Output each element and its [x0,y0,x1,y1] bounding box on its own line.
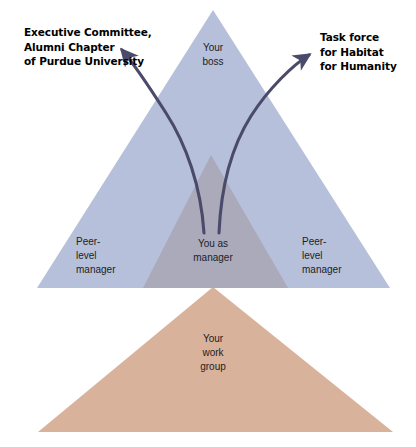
diagram-canvas: Executive Committee, Alumni Chapter of P… [0,0,416,447]
zone-label-peer-level-manager-right: Peer- level manager [302,235,366,277]
zone-label-your-work-group: Your work group [181,332,245,374]
callout-task-force: Task force for Habitat for Humanity [320,30,397,74]
zone-label-you-as-manager: You as manager [176,237,250,265]
zone-label-peer-level-manager-left: Peer- level manager [76,235,140,277]
zone-label-your-boss: Your boss [178,41,248,69]
callout-executive-committee: Executive Committee, Alumni Chapter of P… [24,25,152,69]
